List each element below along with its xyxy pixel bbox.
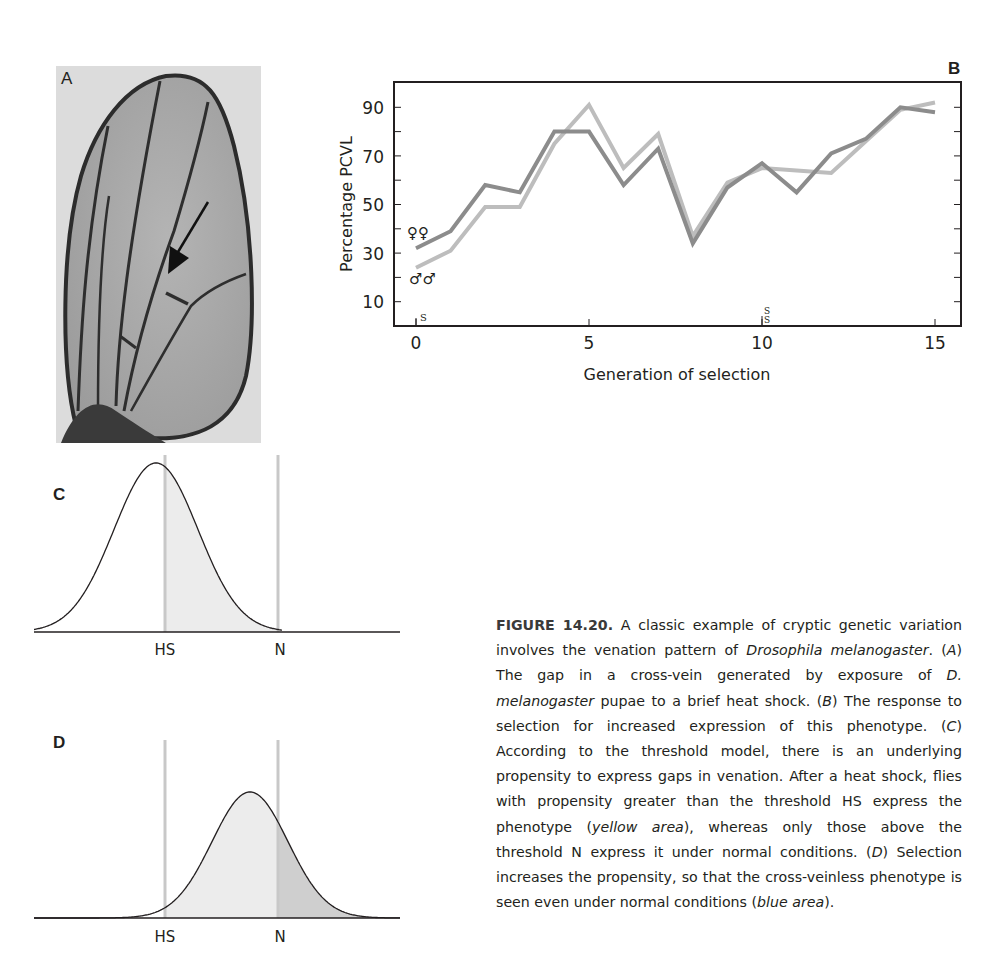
y-tick-50: 50 — [362, 195, 384, 215]
y-tick-10: 10 — [362, 292, 384, 312]
curve-c-svg: HS N — [20, 455, 400, 665]
y-axis-title: Percentage PCVL — [337, 136, 356, 272]
threshold-label-hs: HS — [155, 928, 176, 946]
s-marker-0: S — [420, 312, 427, 323]
caption-text: pupae to a brief heat shock. ( — [594, 693, 822, 709]
caption-blue-area: blue area — [757, 894, 824, 910]
figure-id: FIGURE 14.20. — [496, 617, 613, 633]
male-symbol-icon: ♂♂ — [409, 270, 436, 288]
shaded-area-n — [278, 822, 398, 918]
threshold-label-n: N — [274, 928, 285, 946]
drosophila-wing-image — [56, 66, 261, 443]
chart-b-svg: 90 70 50 30 10 0 5 10 15 Generation of s… — [330, 60, 970, 390]
curve-d-svg: HS N — [20, 740, 400, 955]
wing-photo-panel — [56, 66, 261, 443]
x-axis-title: Generation of selection — [584, 365, 771, 384]
y-tick-70: 70 — [362, 147, 384, 167]
caption-ref-b: B — [822, 693, 832, 709]
female-series-line — [416, 107, 935, 248]
y-tick-30: 30 — [362, 244, 384, 264]
caption-yellow-area: yellow area — [592, 819, 684, 835]
x-tick-15: 15 — [924, 333, 946, 353]
threshold-model-before-selection: HS N — [20, 455, 400, 665]
s-marker-10b: S — [764, 315, 770, 325]
caption-ref-d: D — [872, 844, 883, 860]
threshold-label-hs: HS — [155, 641, 176, 659]
figure-caption: FIGURE 14.20. A classic example of crypt… — [496, 613, 962, 915]
caption-text: . ( — [929, 642, 947, 658]
x-tick-10: 10 — [751, 333, 773, 353]
x-tick-0: 0 — [411, 333, 422, 353]
panel-label-a: A — [61, 69, 72, 89]
data-series — [416, 102, 935, 267]
caption-text: ) According to the threshold model, ther… — [496, 718, 962, 835]
shaded-area-hs — [165, 792, 278, 918]
caption-species: Drosophila melanogaster — [746, 642, 928, 658]
caption-ref-a: A — [947, 642, 957, 658]
y-tick-90: 90 — [362, 98, 384, 118]
caption-text: ). — [824, 894, 834, 910]
x-axis-ticks — [416, 319, 935, 326]
selection-response-chart: 90 70 50 30 10 0 5 10 15 Generation of s… — [330, 60, 970, 390]
distribution-curve — [34, 463, 282, 630]
threshold-label-n: N — [274, 641, 285, 659]
x-tick-5: 5 — [584, 333, 595, 353]
female-symbol-icon: ♀♀ — [407, 224, 429, 242]
threshold-model-after-selection: HS N — [20, 740, 400, 955]
caption-ref-c: C — [947, 718, 957, 734]
